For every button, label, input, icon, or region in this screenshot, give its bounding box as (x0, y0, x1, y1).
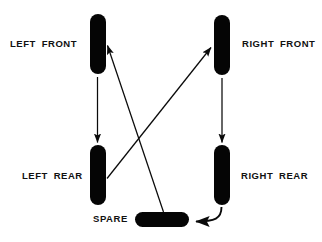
arrow-spare-to-left-front (108, 46, 164, 213)
label-left-rear: LEFT REAR (22, 171, 83, 181)
tire-rotation-diagram: LEFT FRONT RIGHT FRONT LEFT REAR RIGHT R… (0, 0, 322, 242)
label-right-front: RIGHT FRONT (242, 39, 315, 49)
label-left-front: LEFT FRONT (10, 39, 77, 49)
arrow-left-rear-to-right-front (107, 48, 211, 179)
rotation-arrow-layer (0, 0, 322, 242)
label-spare: SPARE (93, 214, 128, 224)
label-right-rear: RIGHT REAR (241, 171, 308, 181)
arrow-right-rear-to-spare (196, 207, 222, 222)
